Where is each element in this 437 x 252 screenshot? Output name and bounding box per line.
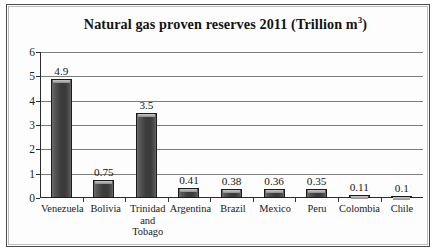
x-axis-labels: VenezuelaBoliviaTrinidadand TobagoArgent… [40, 203, 423, 238]
y-tick-label-5: 5 [29, 70, 35, 82]
x-tick-mark [125, 198, 126, 202]
bar-cell: 0.75 [83, 52, 126, 198]
x-axis-label: Argentina [169, 203, 212, 238]
x-tick-mark [210, 198, 211, 202]
bar[interactable]: 4.9 [51, 79, 72, 198]
x-tick-mark [168, 198, 169, 202]
x-tick-mark [253, 198, 254, 202]
x-axis-label: Mexico [254, 203, 296, 238]
bar-series: 4.90.753.50.410.380.360.350.110.1 [40, 52, 423, 198]
x-axis-label: Brazil [212, 203, 254, 238]
bar-cell: 4.9 [40, 52, 83, 198]
bar-value-label: 0.1 [395, 182, 409, 194]
bar[interactable]: 0.36 [264, 189, 285, 198]
y-tick-label-4: 4 [29, 95, 35, 107]
bar-cell: 0.36 [253, 52, 296, 198]
x-axis-label-line: Venezuela [41, 203, 84, 215]
y-tick-label-3: 3 [29, 119, 35, 131]
bar-cell: 0.38 [210, 52, 253, 198]
chart-title: Natural gas proven reserves 2011 (Trilli… [17, 16, 434, 33]
bar-cell: 0.1 [381, 52, 424, 198]
chart-border: Natural gas proven reserves 2011 (Trilli… [6, 4, 430, 247]
y-tick-label-2: 2 [29, 143, 35, 155]
plot-area: 0123456 4.90.753.50.410.380.360.350.110.… [40, 52, 423, 198]
x-tick-mark [381, 198, 382, 202]
x-axis-label: Bolivia [85, 203, 127, 238]
x-axis-label-line: Argentina [170, 203, 211, 215]
bar[interactable]: 0.38 [221, 189, 242, 198]
bar[interactable]: 0.11 [349, 195, 370, 198]
bar[interactable]: 0.35 [306, 189, 327, 198]
bar-value-label: 4.9 [54, 65, 68, 77]
bar-value-label: 0.38 [222, 175, 242, 187]
bar[interactable]: 0.41 [178, 188, 199, 198]
bar-value-label: 0.11 [350, 181, 369, 193]
bar[interactable]: 3.5 [136, 113, 157, 198]
chart-title-main: Natural gas proven reserves 2011 (Trilli… [84, 16, 358, 32]
y-tick-label-0: 0 [29, 192, 35, 204]
bar-cell: 0.35 [295, 52, 338, 198]
x-axis-label-line: Trinidad [128, 203, 168, 215]
bar-cell: 0.41 [168, 52, 211, 198]
x-axis-label: Trinidadand Tobago [127, 203, 169, 238]
y-tick-label-1: 1 [29, 168, 35, 180]
y-tick-mark-0 [36, 198, 40, 199]
chart-figure: Natural gas proven reserves 2011 (Trilli… [0, 0, 437, 252]
x-axis-label: Colombia [338, 203, 381, 238]
x-axis-label-line: Colombia [339, 203, 380, 215]
x-tick-mark [338, 198, 339, 202]
x-axis-label: Peru [296, 203, 338, 238]
x-tick-mark [83, 198, 84, 202]
x-axis-label-line: and Tobago [128, 215, 168, 238]
bar[interactable]: 0.75 [93, 180, 114, 198]
x-axis-label-line: Bolivia [86, 203, 126, 215]
bar-value-label: 3.5 [139, 99, 153, 111]
x-axis-label-line: Brazil [213, 203, 253, 215]
x-axis-label-line: Mexico [255, 203, 295, 215]
bar-value-label: 0.75 [94, 166, 114, 178]
x-axis-label-line: Peru [297, 203, 337, 215]
x-axis-label-line: Chile [382, 203, 422, 215]
bar-cell: 0.11 [338, 52, 381, 198]
bar-cell: 3.5 [125, 52, 168, 198]
bar-value-label: 0.36 [264, 175, 284, 187]
x-axis-label: Chile [381, 203, 423, 238]
y-tick-label-6: 6 [29, 46, 35, 58]
bar-value-label: 0.41 [179, 174, 199, 186]
bar[interactable]: 0.1 [391, 196, 412, 198]
chart-title-suffix: ) [362, 16, 367, 32]
x-axis-label: Venezuela [40, 203, 85, 238]
x-tick-mark [295, 198, 296, 202]
bar-value-label: 0.35 [307, 175, 327, 187]
